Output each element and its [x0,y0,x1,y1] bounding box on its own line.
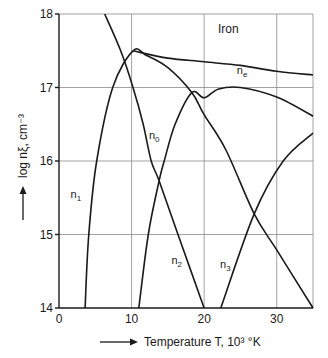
y-axis-title-group: log nξ, cm⁻³ [16,114,30,220]
x-axis-arrowhead-icon [130,339,138,346]
tick-labels: 01020301415161718 [40,7,284,326]
x-tick-label: 0 [56,312,63,326]
y-tick-label: 14 [40,301,54,315]
series-label-n2: n2 [171,254,182,269]
x-axis-title: Temperature T, 10³ °K [144,335,261,349]
series-line-n3 [221,133,313,308]
y-tick-label: 15 [40,228,54,242]
series-labels: n0n1n2n3ne [71,64,248,272]
x-tick-label: 30 [270,312,284,326]
y-tick-label: 16 [40,154,54,168]
y-axis-title: log nξ, cm⁻³ [16,114,30,178]
x-axis-title-group: Temperature T, 10³ °K [100,335,261,349]
series-label-n1: n1 [71,188,82,203]
chart-title: Iron [218,22,239,36]
series-label-n0: n0 [149,129,160,144]
x-tick-label: 10 [125,312,139,326]
y-tick-label: 17 [40,81,54,95]
y-tick-label: 18 [40,7,54,21]
y-axis-arrowhead-icon [20,186,27,194]
series-label-n3: n3 [220,258,231,273]
chart: 01020301415161718 n0n1n2n3ne Iron Temper… [0,0,328,358]
x-tick-label: 20 [197,312,211,326]
